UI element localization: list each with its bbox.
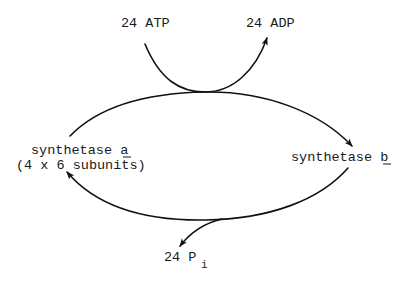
atp-label: 24 ATP — [121, 16, 170, 31]
synthetase-b-letter: b — [380, 150, 388, 165]
synthetase-b-label: synthetase b — [291, 150, 388, 165]
a-to-b-arrow — [70, 92, 352, 146]
synthetase-a-prefix: synthetase — [31, 143, 120, 158]
pi-release-arrow — [180, 219, 222, 246]
pi-label: 24 P — [164, 250, 196, 265]
cycle-diagram: 24 ATP 24 ADP synthetase a (4 x 6 subuni… — [0, 0, 405, 281]
synthetase-a-label: synthetase a — [31, 143, 128, 158]
synthetase-b-prefix: synthetase — [291, 150, 380, 165]
pi-subscript: i — [201, 259, 208, 271]
adp-label: 24 ADP — [246, 16, 295, 31]
synthetase-a-letter: a — [120, 143, 128, 158]
b-to-a-arrow — [67, 168, 348, 220]
pi-prefix: 24 P — [164, 250, 196, 265]
atp-to-adp-arrow — [145, 38, 267, 92]
synthetase-a-subunits: (4 x 6 subunits) — [16, 158, 146, 173]
